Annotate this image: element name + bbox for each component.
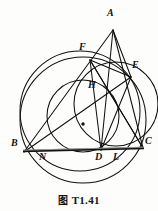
segment-ab: [24, 30, 113, 152]
point-label-l: L: [113, 152, 119, 162]
segment-ac: [113, 30, 143, 148]
point-label-b: B: [11, 138, 18, 148]
point-label-f: F: [79, 42, 86, 52]
point-label-n: N: [39, 152, 46, 162]
point-label-d: D: [95, 152, 102, 162]
circles-group: [20, 51, 158, 183]
segment-ad: [101, 30, 113, 150]
center-dot: [81, 122, 84, 125]
figure-caption: 图 T1.41: [0, 194, 158, 207]
point-label-e: E: [132, 60, 139, 70]
point-label-c: C: [145, 136, 152, 146]
circle-through-f-e: [20, 51, 140, 171]
segment-fc-lower: [90, 60, 143, 148]
point-label-h: H: [88, 80, 96, 90]
caption-cn-char: 图: [58, 195, 68, 206]
point-label-a: A: [107, 8, 114, 18]
caption-number: T1.41: [72, 194, 100, 206]
figure-container: A B C D E F H L N 图 T1.41: [0, 0, 158, 211]
geometry-diagram: [0, 0, 158, 211]
